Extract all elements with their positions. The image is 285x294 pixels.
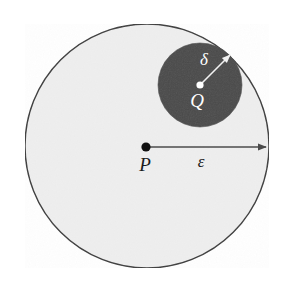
epsilon-delta-figure: P Q ε δ (0, 0, 285, 294)
point-q-dot (196, 81, 203, 88)
epsilon-label: ε (198, 152, 205, 171)
point-p-dot (141, 142, 150, 151)
delta-label: δ (200, 50, 209, 69)
diagram-canvas: P Q ε δ (0, 0, 285, 294)
point-q-label: Q (190, 90, 204, 111)
point-p-label: P (138, 154, 151, 175)
